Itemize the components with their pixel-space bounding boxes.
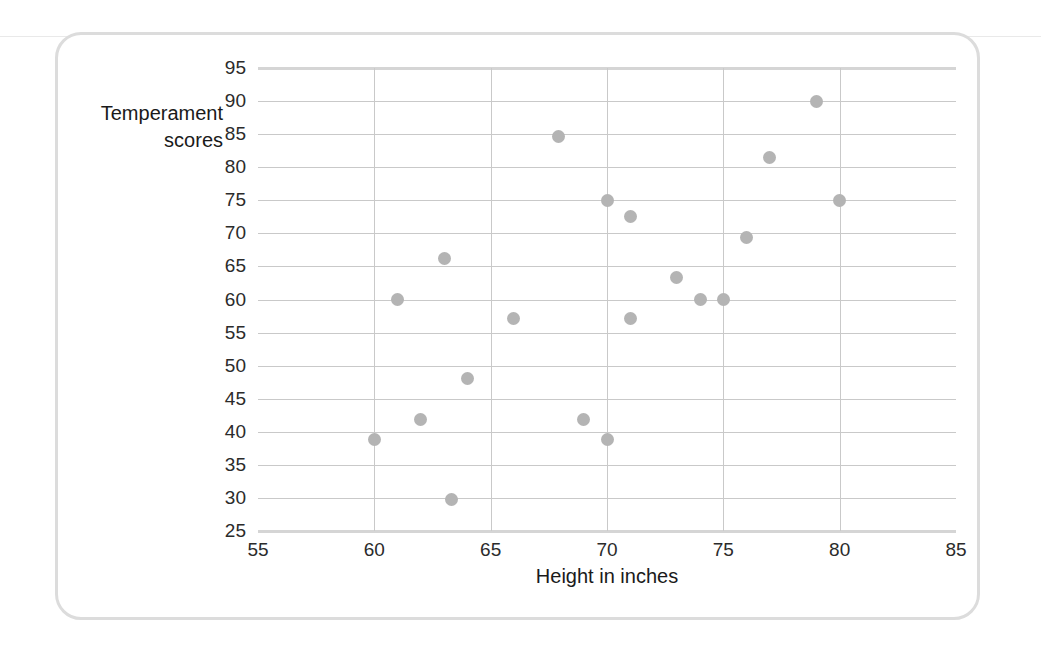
data-point [624,210,637,223]
data-point [577,413,590,426]
data-point [552,130,565,143]
plot-area [258,68,956,531]
y-axis-label-line2: scores [60,127,223,154]
data-point [445,493,458,506]
y-axis-label: Temperament scores [60,100,223,154]
gridline-x-60 [374,68,375,531]
data-point [763,151,776,164]
scatter-plot-figure: Temperament scores Height in inches 2530… [0,0,1041,652]
x-tick-label-80: 80 [810,539,870,561]
y-tick-label-45: 45 [202,388,246,410]
y-tick-label-70: 70 [202,222,246,244]
data-point [670,271,683,284]
y-tick-label-65: 65 [202,255,246,277]
gridline-x-70 [607,68,608,531]
data-point [740,231,753,244]
data-point [694,293,707,306]
y-tick-label-85: 85 [202,123,246,145]
y-tick-label-50: 50 [202,355,246,377]
data-point [507,312,520,325]
data-point [438,252,451,265]
x-tick-label-75: 75 [693,539,753,561]
y-tick-label-90: 90 [202,90,246,112]
x-axis-label: Height in inches [258,565,956,588]
x-tick-label-65: 65 [461,539,521,561]
gridline-x-65 [491,68,492,531]
y-tick-label-55: 55 [202,322,246,344]
data-point [461,372,474,385]
data-point [368,433,381,446]
x-tick-label-60: 60 [344,539,404,561]
data-point [833,194,846,207]
data-point [717,293,730,306]
y-tick-label-40: 40 [202,421,246,443]
y-tick-label-30: 30 [202,487,246,509]
y-tick-label-80: 80 [202,156,246,178]
data-point [601,194,614,207]
gridline-x-80 [840,68,841,531]
data-point [391,293,404,306]
y-tick-label-75: 75 [202,189,246,211]
data-point [414,413,427,426]
y-tick-label-60: 60 [202,289,246,311]
y-tick-label-35: 35 [202,454,246,476]
x-tick-label-70: 70 [577,539,637,561]
data-point [624,312,637,325]
x-tick-label-85: 85 [926,539,986,561]
data-point [601,433,614,446]
data-point [810,95,823,108]
y-axis-label-line1: Temperament [60,100,223,127]
x-tick-label-55: 55 [228,539,288,561]
y-tick-label-95: 95 [202,57,246,79]
